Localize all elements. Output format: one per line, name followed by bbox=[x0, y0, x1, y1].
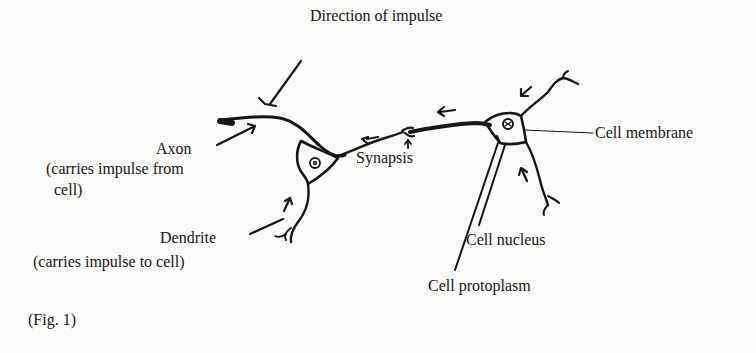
cell-membrane-label: Cell membrane bbox=[595, 123, 693, 142]
figure-caption: (Fig. 1) bbox=[28, 310, 76, 329]
left-neuron bbox=[220, 117, 403, 242]
cell-nucleus-label: Cell nucleus bbox=[466, 230, 546, 249]
impulse-arrows-left bbox=[217, 124, 378, 234]
synapsis-label: Synapsis bbox=[356, 148, 413, 167]
dendrite-label: Dendrite bbox=[160, 228, 216, 247]
impulse-arrows-right bbox=[438, 87, 531, 181]
cell-protoplasm-label: Cell protoplasm bbox=[428, 276, 531, 295]
dendrite-description: (carries impulse to cell) bbox=[33, 252, 185, 271]
axon-description-line2: cell) bbox=[54, 180, 82, 199]
axon-label: Axon bbox=[156, 139, 192, 158]
direction-of-impulse-label: Direction of impulse bbox=[310, 6, 442, 25]
direction-pointer-arrow bbox=[259, 61, 301, 106]
axon-description-line1: (carries impulse from bbox=[46, 159, 184, 178]
